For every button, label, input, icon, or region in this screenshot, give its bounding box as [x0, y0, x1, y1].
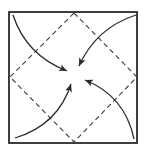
paper-square: [9, 12, 137, 143]
origami-diagram: [0, 0, 148, 158]
